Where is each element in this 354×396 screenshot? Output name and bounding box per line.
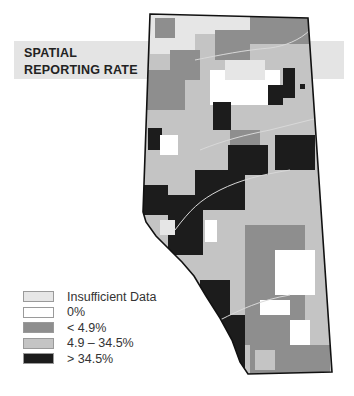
legend-label: Insufficient Data	[67, 290, 156, 304]
legend-item-insufficient: Insufficient Data	[23, 289, 156, 305]
title-line-1: SPATIAL	[24, 45, 138, 62]
legend-item-mid: 4.9 – 34.5%	[23, 336, 156, 352]
legend-label: 0%	[67, 305, 85, 319]
legend-item-high: > 34.5%	[23, 351, 156, 367]
map-title: SPATIAL REPORTING RATE	[24, 45, 138, 79]
title-line-2: REPORTING RATE	[24, 62, 138, 79]
legend-label: > 34.5%	[67, 352, 113, 366]
legend: Insufficient Data 0% < 4.9% 4.9 – 34.5% …	[23, 289, 156, 367]
legend-item-zero: 0%	[23, 305, 156, 321]
legend-label: < 4.9%	[67, 321, 106, 335]
legend-label: 4.9 – 34.5%	[67, 336, 134, 350]
legend-swatch	[23, 353, 54, 364]
legend-swatch	[23, 338, 54, 349]
legend-swatch	[23, 291, 54, 302]
legend-swatch	[23, 322, 54, 333]
legend-swatch	[23, 307, 54, 318]
legend-item-low: < 4.9%	[23, 320, 156, 336]
